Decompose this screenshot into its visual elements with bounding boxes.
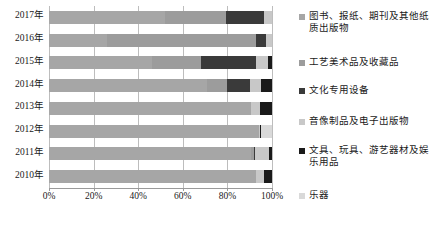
y-axis-label-2015年: 2015年	[15, 57, 44, 67]
legend-item-1[interactable]: 图书、报纸、期刊及其他纸质出版物	[299, 11, 438, 34]
bar-segment	[250, 79, 261, 92]
bar-segment	[256, 56, 267, 69]
x-axis-line	[49, 188, 273, 189]
y-axis-label-2014年: 2014年	[15, 80, 44, 90]
legend-swatch-icon	[299, 14, 305, 20]
legend-swatch-icon	[299, 148, 305, 154]
chart-root: 2017年2016年2015年2014年2013年2012年2011年2010年…	[0, 0, 438, 225]
bar-segment	[49, 102, 251, 115]
bar-segment	[107, 34, 256, 47]
x-axis-label-40pct: 40%	[129, 191, 146, 202]
x-tick-20pct	[94, 188, 95, 191]
bar-segment	[49, 125, 259, 138]
legend-label: 文化专用设备	[309, 85, 369, 97]
legend-swatch-icon	[299, 60, 305, 66]
y-axis-label-2013年: 2013年	[15, 102, 44, 112]
plot-area	[49, 6, 272, 188]
y-axis-label-2010年: 2010年	[15, 171, 44, 181]
bar-segment	[49, 56, 152, 69]
x-tick-100pct	[272, 188, 273, 191]
x-tick-80pct	[227, 188, 228, 191]
x-axis-tick-labels: 0%20%40%60%80%100%	[0, 191, 292, 211]
x-axis-label-20pct: 20%	[85, 191, 102, 202]
legend-item-2[interactable]: 工艺美术品及收藏品	[299, 57, 438, 69]
bar-2013年	[49, 102, 272, 115]
bar-segment	[201, 56, 257, 69]
bar-segment	[268, 56, 272, 69]
bar-segment	[256, 170, 264, 183]
bar-segment	[49, 34, 107, 47]
y-axis-label-2012年: 2012年	[15, 125, 44, 135]
bar-segment	[269, 147, 272, 160]
bar-2011年	[49, 147, 272, 160]
bar-segment	[207, 79, 227, 92]
bar-2015年	[49, 56, 272, 69]
x-tick-60pct	[183, 188, 184, 191]
legend-label: 图书、报纸、期刊及其他纸质出版物	[309, 11, 438, 34]
x-axis-label-0pct: 0%	[43, 191, 56, 202]
bar-segment	[264, 170, 272, 183]
bar-segment	[227, 79, 249, 92]
legend-swatch-icon	[299, 119, 305, 125]
legend-swatch-icon	[299, 88, 305, 94]
bar-segment	[261, 125, 272, 138]
legend-item-5[interactable]: 文具、玩具、游艺器材及娱乐用品	[299, 145, 438, 168]
x-tick-0pct	[49, 188, 50, 191]
legend-item-6[interactable]: 乐器	[299, 190, 438, 202]
bar-segment	[49, 170, 256, 183]
gridline-100pct	[272, 6, 273, 188]
legend-label: 乐器	[309, 190, 329, 202]
bar-2014年	[49, 79, 272, 92]
bar-2017年	[49, 11, 272, 24]
y-axis-label-2017年: 2017年	[15, 11, 44, 21]
legend-item-4[interactable]: 音像制品及电子出版物	[299, 116, 438, 128]
bar-segment	[256, 34, 266, 47]
bar-segment	[251, 102, 260, 115]
bar-segment	[49, 147, 251, 160]
bar-segment	[260, 102, 272, 115]
bar-2012年	[49, 125, 272, 138]
bar-segment	[49, 79, 207, 92]
y-axis-label-2011年: 2011年	[15, 148, 44, 158]
legend-label: 文具、玩具、游艺器材及娱乐用品	[309, 145, 438, 168]
bar-segment	[261, 79, 272, 92]
x-axis-label-100pct: 100%	[261, 191, 283, 202]
legend-label: 音像制品及电子出版物	[309, 116, 409, 128]
bar-2016年	[49, 34, 272, 47]
legend-item-3[interactable]: 文化专用设备	[299, 85, 438, 97]
bar-segment	[165, 11, 226, 24]
bar-segment	[49, 11, 165, 24]
bar-segment	[226, 11, 264, 24]
bar-segment	[264, 11, 272, 24]
stacked-bar-chart: 2017年2016年2015年2014年2013年2012年2011年2010年…	[0, 0, 292, 225]
legend-swatch-icon	[299, 193, 305, 199]
legend-label: 工艺美术品及收藏品	[309, 57, 399, 69]
x-tick-40pct	[138, 188, 139, 191]
y-axis-label-2016年: 2016年	[15, 34, 44, 44]
bar-2010年	[49, 170, 272, 183]
y-axis-category-labels: 2017年2016年2015年2014年2013年2012年2011年2010年	[0, 0, 47, 188]
x-axis-label-60pct: 60%	[174, 191, 191, 202]
bar-segment	[266, 34, 272, 47]
bar-segment	[255, 147, 268, 160]
bar-segment	[152, 56, 201, 69]
chart-legend: 图书、报纸、期刊及其他纸质出版物工艺美术品及收藏品文化专用设备音像制品及电子出版…	[299, 9, 438, 209]
x-axis-label-80pct: 80%	[219, 191, 236, 202]
